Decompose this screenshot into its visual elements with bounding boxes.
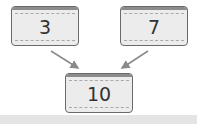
arrow-right-icon	[122, 51, 148, 68]
arrows	[0, 0, 197, 124]
arrow-left-icon	[51, 51, 78, 68]
bottom-band	[0, 115, 197, 124]
